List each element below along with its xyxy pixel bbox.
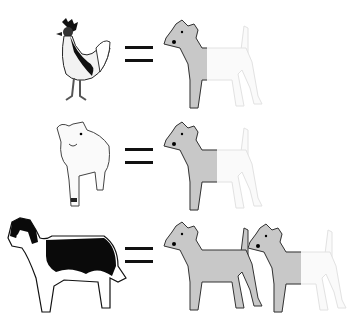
row-border-collie: 1 border collie = 1 1/2 dogs = bbox=[0, 200, 357, 319]
border-collie-icon bbox=[6, 216, 126, 312]
row-sheep: 1 sheep = about 2/3 dog = bbox=[0, 110, 357, 200]
rooster-icon bbox=[52, 18, 112, 103]
sheep-icon bbox=[55, 120, 111, 212]
dog-fraction-icon bbox=[246, 222, 346, 314]
equals-sign: = bbox=[125, 46, 153, 62]
dog-fraction-icon bbox=[162, 18, 262, 110]
equals-sign: = bbox=[125, 148, 153, 164]
equals-sign: = bbox=[125, 247, 153, 263]
dog-fraction-icon bbox=[162, 120, 262, 212]
row-rooster: 1 rooster = 1/2 dog = bbox=[0, 0, 357, 110]
